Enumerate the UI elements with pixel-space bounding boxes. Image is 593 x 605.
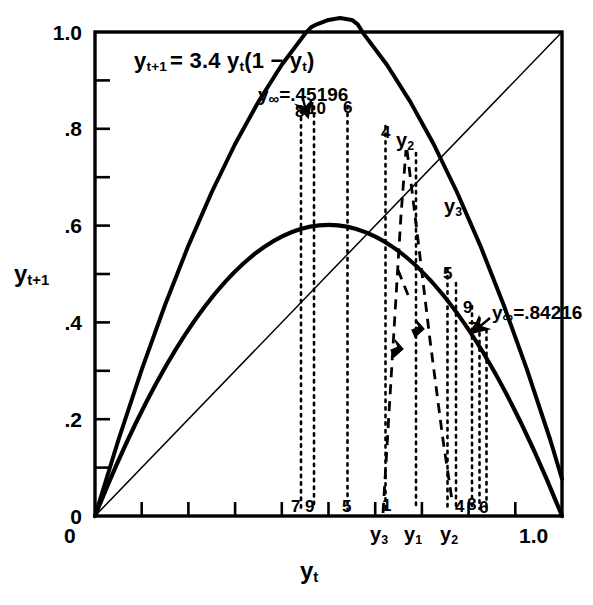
bottom-label-y2-sub: 2 bbox=[451, 533, 458, 547]
bottom-number-label-9: 9 bbox=[305, 498, 314, 515]
curve-point-label-6: 6 bbox=[343, 99, 352, 116]
curve-point-label-7: 7 bbox=[468, 320, 477, 337]
equation-rhs-end: ) bbox=[307, 48, 315, 73]
bottom-label-y1-var: y bbox=[404, 523, 415, 545]
y-inf-low-sub: ∞ bbox=[269, 91, 280, 107]
x-tick-label-0: 0 bbox=[64, 525, 76, 546]
y-axis-title: yt+1 bbox=[14, 262, 49, 288]
y-inf-high-var: y bbox=[492, 302, 503, 323]
inline-label-y3-sub: 3 bbox=[455, 205, 462, 219]
bottom-number-label-7: 7 bbox=[291, 498, 300, 515]
y-inf-high-annotation: y∞=.84216 bbox=[492, 303, 582, 324]
inline-label-y2: y2 bbox=[396, 130, 414, 152]
equation-lhs-sub: t+1 bbox=[146, 59, 167, 74]
y-inf-high-value: =.84216 bbox=[513, 302, 582, 323]
y-axis-title-sub: t+1 bbox=[27, 272, 49, 288]
dotted-droplines bbox=[301, 106, 487, 509]
bottom-label-y1: y1 bbox=[404, 524, 422, 546]
y-tick-label-0.6: .6 bbox=[20, 215, 82, 236]
bottom-number-label-6: 6 bbox=[479, 499, 488, 516]
x-axis-title: yt bbox=[300, 559, 318, 585]
curve-point-label-8: 8 bbox=[295, 103, 304, 120]
bottom-label-y2: y2 bbox=[440, 524, 458, 546]
bottom-label-y3-sub: 3 bbox=[381, 533, 388, 547]
y-axis-title-var: y bbox=[14, 260, 27, 287]
curve-point-label-10: 10 bbox=[307, 100, 326, 117]
equation-annotation: yt+1= 3.4 yt(1 − yt) bbox=[134, 50, 315, 74]
y-tick-label-0.8: .8 bbox=[20, 118, 82, 139]
inline-label-y3: y3 bbox=[444, 196, 462, 218]
bottom-label-y1-sub: 1 bbox=[415, 533, 422, 547]
bottom-number-label-4: 4 bbox=[455, 498, 464, 515]
curve-point-label-5: 5 bbox=[443, 265, 452, 282]
diagonal-arrow-marker bbox=[421, 186, 433, 195]
y-axis-ticks bbox=[95, 80, 110, 467]
bottom-label-y3: y3 bbox=[370, 524, 388, 546]
x-axis-title-sub: t bbox=[313, 569, 318, 585]
bottom-label-y3-var: y bbox=[370, 523, 381, 545]
curve-point-label-4: 4 bbox=[381, 124, 390, 141]
x-tick-label-1.0: 1.0 bbox=[519, 525, 548, 546]
y-tick-label-0.2: .2 bbox=[20, 409, 82, 430]
y-inf-high-sub: ∞ bbox=[503, 309, 514, 325]
bottom-label-y2-var: y bbox=[440, 523, 451, 545]
bottom-number-label-5: 5 bbox=[342, 498, 351, 515]
bottom-number-label-8: 8 bbox=[467, 496, 476, 513]
inline-label-y2-sub: 2 bbox=[407, 139, 414, 153]
curve-point-label-9: 9 bbox=[463, 299, 472, 316]
y-tick-label-0.4: .4 bbox=[20, 312, 82, 333]
trajectory-arrows bbox=[391, 320, 424, 357]
equation-rhs-tail: (1 − y bbox=[244, 48, 302, 73]
bottom-number-label-1: 1 bbox=[382, 497, 391, 514]
equation-rhs: = 3.4 y bbox=[170, 48, 239, 73]
inline-label-y2-var: y bbox=[396, 129, 407, 151]
figure-root: 1.0 .8 .6 .4 .2 0 0 1.0 yt+1 yt yt+1= 3.… bbox=[0, 0, 593, 605]
inline-label-y3-var: y bbox=[444, 195, 455, 217]
equation-lhs-var: y bbox=[134, 48, 146, 73]
x-axis-title-var: y bbox=[300, 557, 313, 584]
y-inf-low-var: y bbox=[258, 84, 269, 105]
y-tick-label-1.0: 1.0 bbox=[20, 22, 82, 43]
